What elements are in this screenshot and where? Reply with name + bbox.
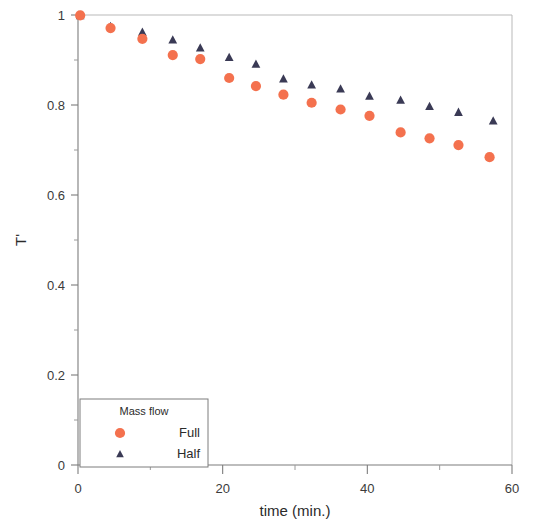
data-point-full	[335, 104, 345, 114]
series-half-markers	[76, 11, 498, 125]
y-axis-tick-labels: 00.20.40.60.81	[47, 8, 65, 473]
data-point-half	[225, 53, 234, 61]
data-point-full	[168, 50, 178, 60]
series-full-markers	[75, 10, 495, 162]
chart-container: 00.20.40.60.81 0204060 T' time (min.) Ma…	[0, 0, 534, 523]
data-point-half	[336, 84, 345, 92]
data-point-half	[396, 95, 405, 103]
x-tick-label: 0	[74, 481, 81, 496]
x-tick-label: 20	[215, 481, 229, 496]
data-point-full	[453, 140, 463, 150]
y-tick-label: 0.8	[47, 98, 65, 113]
data-point-half	[252, 59, 261, 67]
y-tick-label: 0	[58, 458, 65, 473]
data-point-full	[396, 127, 406, 137]
chart-legend: Mass flow FullHalf	[80, 399, 208, 467]
legend-title: Mass flow	[120, 405, 169, 417]
data-point-full	[224, 73, 234, 83]
x-tick-label: 40	[360, 481, 374, 496]
data-point-half	[196, 43, 205, 51]
y-axis-ticks	[71, 15, 78, 465]
legend-label: Full	[179, 425, 200, 440]
data-point-full	[424, 133, 434, 143]
legend-label: Half	[177, 446, 201, 461]
data-point-full	[137, 34, 147, 44]
plot-frame	[78, 15, 512, 465]
data-point-half	[425, 102, 434, 110]
scatter-plot: 00.20.40.60.81 0204060 T' time (min.) Ma…	[0, 0, 534, 523]
data-point-half	[454, 108, 463, 116]
y-tick-label: 0.2	[47, 368, 65, 383]
data-point-half	[489, 116, 498, 124]
data-point-full	[251, 81, 261, 91]
data-point-full	[278, 90, 288, 100]
data-point-full	[195, 54, 205, 64]
plot-axes	[78, 15, 512, 465]
data-point-half	[307, 80, 316, 88]
data-point-half	[365, 91, 374, 99]
data-point-half	[279, 74, 288, 82]
data-point-full	[364, 111, 374, 121]
x-axis-title: time (min.)	[260, 502, 331, 519]
data-point-full	[75, 10, 85, 20]
y-axis-title: T'	[12, 234, 29, 246]
y-tick-label: 1	[58, 8, 65, 23]
data-point-full	[307, 98, 317, 108]
x-tick-label: 60	[505, 481, 519, 496]
y-tick-label: 0.6	[47, 188, 65, 203]
data-point-full	[105, 23, 115, 33]
x-axis-tick-labels: 0204060	[74, 481, 519, 496]
legend-marker-full	[115, 428, 125, 438]
data-point-half	[168, 35, 177, 43]
y-tick-label: 0.4	[47, 278, 65, 293]
data-point-full	[484, 152, 494, 162]
